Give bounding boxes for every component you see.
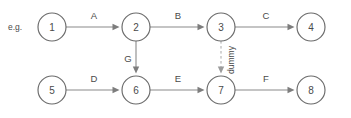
node-label: 7 [218, 85, 224, 96]
node-3[interactable]: 3 [207, 13, 235, 41]
node-label: 5 [49, 85, 55, 96]
node-6[interactable]: 6 [122, 76, 150, 104]
edge-dummy: dummy [218, 41, 236, 74]
node-7[interactable]: 7 [207, 76, 235, 104]
network-diagram-canvas: e.g. ABCDEFGdummy 12345678 [0, 0, 351, 118]
edge-c: C [235, 10, 295, 31]
node-label: 3 [218, 22, 224, 33]
node-label: 2 [133, 22, 139, 33]
node-label: 4 [308, 22, 314, 33]
edge-label-d: D [91, 73, 98, 84]
arrowhead-icon [198, 87, 205, 93]
edge-e: E [150, 73, 205, 94]
edges-layer: ABCDEFGdummy [66, 10, 295, 94]
node-5[interactable]: 5 [38, 76, 66, 104]
arrowhead-icon [198, 24, 205, 30]
arrowhead-icon [133, 67, 139, 74]
arrowhead-icon [113, 24, 120, 30]
arrowhead-icon [288, 87, 295, 93]
network-diagram: e.g. ABCDEFGdummy 12345678 [0, 0, 351, 118]
node-2[interactable]: 2 [122, 13, 150, 41]
arrowhead-icon [288, 24, 295, 30]
edge-label-g: G [124, 53, 131, 64]
node-1[interactable]: 1 [38, 13, 66, 41]
edge-label-dummy: dummy [226, 45, 236, 74]
edge-a: A [66, 10, 120, 31]
edge-label-c: C [263, 10, 270, 21]
edge-label-f: F [263, 73, 269, 84]
node-label: 6 [133, 85, 139, 96]
node-4[interactable]: 4 [297, 13, 325, 41]
caption-label: e.g. [8, 22, 22, 32]
edge-b: B [150, 10, 205, 31]
arrowhead-icon [218, 67, 224, 74]
edge-label-e: E [175, 73, 181, 84]
arrowhead-icon [113, 87, 120, 93]
edge-g: G [124, 41, 139, 74]
node-label: 8 [308, 85, 314, 96]
edge-d: D [66, 73, 120, 94]
node-8[interactable]: 8 [297, 76, 325, 104]
edge-label-a: A [91, 10, 98, 21]
node-label: 1 [49, 22, 55, 33]
edge-f: F [235, 73, 295, 94]
edge-label-b: B [175, 10, 181, 21]
